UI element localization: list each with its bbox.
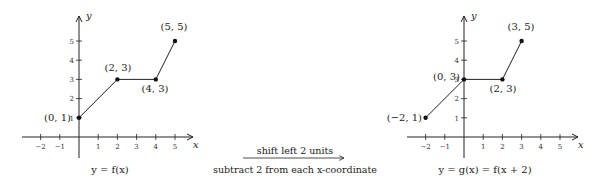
point: [462, 77, 466, 81]
right-caption: y = g(x) = f(x + 2): [420, 164, 550, 175]
point: [115, 77, 119, 81]
point: [423, 116, 427, 120]
y-tick-label: 1: [455, 115, 459, 123]
x-tick-label: 2: [115, 143, 119, 151]
point-label: (3, 5): [508, 21, 535, 32]
y-tick-label: 2: [455, 95, 459, 103]
transformation-diagram: −2 −1 1 2 3 4 5 1 2 3 4 5 x y (0, 1) (2,…: [0, 0, 598, 189]
point: [77, 116, 81, 120]
x-tick-label: 3: [519, 143, 523, 151]
point-label: (2, 3): [490, 83, 517, 94]
x-tick-label: 1: [481, 143, 485, 151]
point-label: (5, 5): [161, 21, 188, 32]
point-label: (2, 3): [105, 62, 132, 73]
left-graph: −2 −1 1 2 3 4 5 1 2 3 4 5 x y (0, 1) (2,…: [22, 10, 199, 158]
point: [173, 39, 177, 43]
x-tick-label: 3: [134, 143, 138, 151]
y-axis-label: y: [85, 10, 92, 21]
x-tick-label: 5: [558, 143, 562, 151]
y-tick-label: 5: [455, 38, 459, 46]
y-tick-label: 5: [70, 38, 74, 46]
x-tick-label: −2: [35, 143, 45, 151]
point: [519, 39, 523, 43]
y-tick-label: 4: [455, 57, 460, 65]
transform-top-label: shift left 2 units: [230, 145, 360, 156]
x-tick-label: −1: [55, 143, 65, 151]
point: [500, 77, 504, 81]
point-label: (0, 3): [433, 71, 460, 82]
point-label: (4, 3): [142, 83, 169, 94]
x-tick-label: −2: [420, 143, 430, 151]
transform-bottom-label: subtract 2 from each x-coordinate: [205, 164, 385, 175]
x-tick-label: 2: [500, 143, 504, 151]
y-tick-label: 3: [70, 76, 74, 84]
left-caption: y = f(x): [60, 164, 160, 175]
x-tick-label: −1: [440, 143, 450, 151]
right-graph: −2 −1 1 2 3 4 5 1 2 3 4 5 x y (−2, 1) (0…: [387, 10, 584, 158]
point-label: (0, 1): [44, 112, 71, 123]
x-tick-label: 4: [154, 143, 159, 151]
graph-f-line: [79, 41, 175, 118]
point: [154, 77, 158, 81]
x-axis-label: x: [578, 139, 584, 150]
y-tick-label: 2: [70, 95, 74, 103]
y-axis-label: y: [470, 10, 477, 21]
point-label: (−2, 1): [387, 112, 422, 123]
x-tick-label: 1: [96, 143, 100, 151]
y-tick-label: 4: [70, 57, 75, 65]
x-tick-label: 4: [539, 143, 544, 151]
x-tick-label: 5: [173, 143, 177, 151]
x-axis-label: x: [193, 139, 199, 150]
